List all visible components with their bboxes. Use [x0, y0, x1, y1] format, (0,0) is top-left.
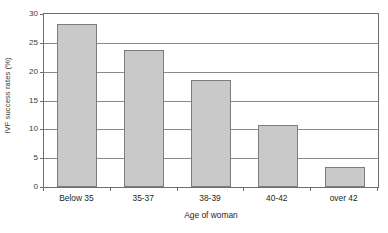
y-axis-tick-mark — [40, 14, 44, 15]
x-axis-tick-labels: Below 3535-3738-3940-42over 42 — [43, 193, 379, 207]
bars-series — [44, 14, 378, 187]
bar — [57, 24, 97, 187]
x-axis-tick-mark — [177, 187, 178, 191]
x-axis-tick-label: over 42 — [330, 193, 358, 203]
y-axis-tick-labels: 051015202530 — [16, 0, 38, 200]
bar-chart-figure: IVF success rates (%) 051015202530 Below… — [0, 0, 388, 233]
x-axis-tick-mark — [110, 187, 111, 191]
x-axis-tick-mark — [377, 187, 378, 191]
y-axis-tick-mark — [40, 72, 44, 73]
y-axis-tick-label: 20 — [16, 66, 38, 75]
bar — [325, 167, 365, 187]
y-axis-tick-label: 10 — [16, 124, 38, 133]
x-axis-tick-label: Below 35 — [59, 193, 93, 203]
bar — [191, 80, 231, 187]
y-axis-tick-mark — [40, 43, 44, 44]
plot-area — [43, 13, 379, 188]
x-axis-tick-mark — [310, 187, 311, 191]
x-axis-title: Age of woman — [43, 210, 379, 220]
y-axis-tick-mark — [40, 101, 44, 102]
y-axis-tick-label: 30 — [16, 9, 38, 18]
y-axis-tick-label: 5 — [16, 153, 38, 162]
x-axis-tick-mark — [43, 187, 44, 191]
x-axis-tick-label: 38-39 — [199, 193, 220, 203]
y-axis-title-text: IVF success rates (%) — [3, 57, 12, 133]
y-axis-title: IVF success rates (%) — [0, 0, 14, 190]
x-axis-tick-label: 40-42 — [266, 193, 287, 203]
y-axis-tick-mark — [40, 129, 44, 130]
bar — [124, 50, 164, 187]
x-axis-tick-mark — [243, 187, 244, 191]
x-axis-tick-marks — [43, 187, 379, 192]
x-axis-tick-label: 35-37 — [132, 193, 153, 203]
y-axis-tick-label: 15 — [16, 95, 38, 104]
y-axis-tick-label: 0 — [16, 182, 38, 191]
bar — [258, 125, 298, 187]
y-axis-tick-mark — [40, 158, 44, 159]
y-axis-tick-label: 25 — [16, 37, 38, 46]
